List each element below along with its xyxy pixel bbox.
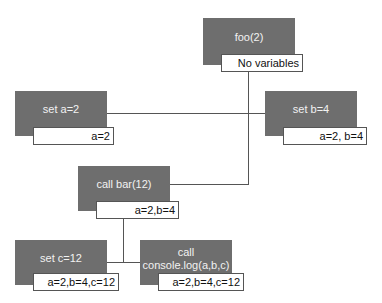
node-set-b-label: set b=4 [293,103,329,116]
connector-foo-call-bar [170,184,249,185]
node-set-c-label: set c=12 [40,252,82,265]
node-call-bar-variables: a=2,b=4 [96,201,179,219]
node-call-console-label-line2: console.log(a,b,c) [143,259,230,272]
connector-set-a-set-b [107,113,265,114]
connector-foo-trunk [248,72,249,185]
node-foo-label: foo(2) [235,31,264,44]
node-call-console-label-line1: call [178,246,195,259]
node-set-a-label: set a=2 [43,103,79,116]
node-call-bar-label: call bar(12) [96,178,151,191]
node-foo-variables: No variables [221,54,303,72]
node-set-b-variables: a=2, b=4 [283,127,367,145]
connector-call-bar-trunk [123,218,124,263]
node-set-a-variables: a=2 [33,127,114,145]
connector-set-c-console [107,262,140,263]
node-set-c-variables: a=2,b=4,c=12 [33,273,119,291]
node-call-console-variables: a=2,b=4,c=12 [158,273,244,291]
